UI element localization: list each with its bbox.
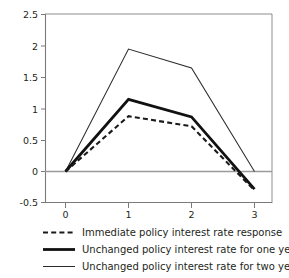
x-tick-label: 1 xyxy=(125,209,131,220)
y-tick-label: -0.5 xyxy=(19,197,38,208)
x-tick-labels: 0 1 2 3 xyxy=(62,209,257,220)
y-tick-marks xyxy=(41,15,45,203)
y-tick-label: 1.5 xyxy=(23,72,38,83)
y-tick-label: 2 xyxy=(32,41,38,52)
line-chart: 2.5 2 1.5 1 0.5 0 -0.5 0 1 2 3 xyxy=(0,0,289,278)
x-tick-label: 2 xyxy=(188,209,194,220)
x-tick-label: 3 xyxy=(251,209,257,220)
y-tick-label: 0.5 xyxy=(23,135,38,146)
chart-legend: Immediate policy interest rate response … xyxy=(43,227,289,272)
legend-label-unchanged-two-years: Unchanged policy interest rate for two y… xyxy=(82,261,289,272)
y-tick-label: 0 xyxy=(32,166,38,177)
y-tick-label: 1 xyxy=(32,104,38,115)
y-tick-labels: 2.5 2 1.5 1 0.5 0 -0.5 xyxy=(19,9,38,208)
legend-label-immediate-response: Immediate policy interest rate response xyxy=(82,227,282,238)
legend-label-unchanged-one-year: Unchanged policy interest rate for one y… xyxy=(82,244,289,255)
chart-figure: 2.5 2 1.5 1 0.5 0 -0.5 0 1 2 3 xyxy=(0,0,289,278)
y-tick-label: 2.5 xyxy=(23,9,38,20)
x-tick-label: 0 xyxy=(62,209,68,220)
x-tick-marks xyxy=(66,203,255,208)
